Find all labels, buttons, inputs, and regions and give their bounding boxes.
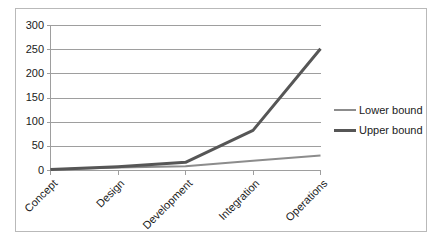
- y-tick-label: 200: [14, 68, 44, 79]
- y-tick-label: 150: [14, 92, 44, 103]
- y-tick-label: 100: [14, 116, 44, 127]
- series-line-upper-bound: [51, 49, 321, 170]
- legend-label: Lower bound: [359, 104, 423, 116]
- chart-legend: Lower boundUpper bound: [334, 100, 422, 140]
- legend-swatch-icon: [334, 109, 356, 111]
- data-series: [51, 49, 321, 170]
- y-tick-label: 250: [14, 44, 44, 55]
- line-chart: 050100150200250300 ConceptDesignDevelopm…: [0, 0, 445, 249]
- legend-item[interactable]: Upper bound: [334, 120, 422, 140]
- legend-swatch-icon: [334, 129, 356, 132]
- y-tick-label: 0: [14, 165, 44, 176]
- y-tick-label: 300: [14, 20, 44, 31]
- y-tick-label: 50: [14, 140, 44, 151]
- legend-label: Upper bound: [359, 124, 423, 136]
- legend-item[interactable]: Lower bound: [334, 100, 422, 120]
